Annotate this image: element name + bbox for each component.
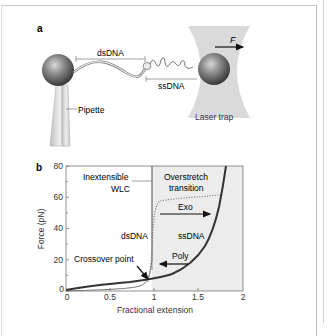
poly-label: Poly [172, 251, 189, 261]
ssdna-strand [150, 57, 193, 68]
svg-text:1.5: 1.5 [192, 292, 204, 302]
svg-text:80: 80 [54, 161, 64, 171]
svg-text:60: 60 [54, 192, 64, 202]
laser-trap-label: Laser trap [195, 112, 234, 122]
svg-text:0: 0 [65, 292, 70, 302]
pipette-bead [42, 54, 74, 86]
x-axis-tick-labels: 0 0.5 1 1.5 2 [65, 292, 246, 302]
pipette [50, 85, 70, 146]
svg-text:2: 2 [241, 292, 246, 302]
panel-a-label: a [37, 23, 43, 34]
panel-b-label: b [36, 162, 42, 173]
dsdna-curve-label: dsDNA [121, 231, 148, 241]
ssdna-curve-label: ssDNA [178, 231, 205, 241]
dsdna-label: dsDNA [97, 48, 124, 58]
crossover-label: Crossover point [74, 254, 134, 264]
dsdna-wlc-curve [66, 166, 152, 291]
pipette-label: Pipette [78, 105, 105, 115]
exo-label: Exo [178, 202, 193, 212]
crossover-arrow [137, 266, 148, 279]
ssdna-label: ssDNA [158, 81, 185, 91]
svg-text:40: 40 [54, 223, 64, 233]
y-axis-ticks [66, 166, 69, 275]
inextensible-label: Inextensible [83, 172, 129, 182]
transition-label: transition [169, 183, 204, 193]
svg-text:20: 20 [54, 255, 64, 265]
trap-bead [198, 53, 230, 85]
svg-text:0: 0 [59, 284, 64, 294]
overstretch-label: Overstretch [164, 172, 208, 182]
y-axis-label: Force (pN) [36, 209, 46, 250]
y-axis-tick-labels: 80 60 40 20 0 [54, 161, 65, 294]
svg-text:1: 1 [152, 292, 157, 302]
force-label: F [230, 35, 236, 45]
wlc-label: WLC [111, 184, 130, 194]
x-axis-label: Fractional extension [117, 305, 193, 315]
svg-text:0.5: 0.5 [104, 292, 116, 302]
